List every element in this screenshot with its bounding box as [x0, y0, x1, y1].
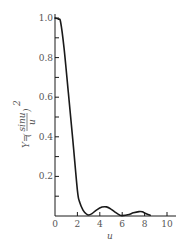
ticks — [55, 18, 167, 216]
x-tick-label: 4 — [97, 219, 103, 229]
chart: 02468100.20.40.60.81.0 u Y= ( sinu u ) 2 — [0, 0, 186, 250]
x-tick-label: 8 — [142, 219, 148, 229]
x-axis-label: u — [107, 231, 113, 241]
x-tick-label: 2 — [75, 219, 81, 229]
data-curve — [55, 18, 150, 216]
y-axis-label-exponent: 2 — [12, 100, 22, 107]
y-axis-label-paren-left: ( — [22, 133, 32, 137]
x-tick-label: 0 — [52, 219, 58, 229]
x-tick-label: 6 — [119, 219, 125, 229]
y-axis-label-denominator: u — [27, 119, 37, 125]
x-tick-label: 10 — [161, 219, 173, 229]
y-tick-label: 0.8 — [39, 53, 54, 63]
y-tick-label: 1.0 — [39, 13, 54, 23]
y-axis-label: Y= ( sinu u ) 2 — [12, 100, 37, 148]
y-tick-label: 0.6 — [39, 92, 54, 102]
y-tick-label: 0.2 — [39, 171, 53, 181]
y-axis-label-numerator: sinu — [17, 112, 27, 131]
y-axis-label-paren-right: ) — [22, 108, 32, 113]
y-tick-label: 0.4 — [39, 132, 54, 142]
axes — [55, 14, 176, 216]
